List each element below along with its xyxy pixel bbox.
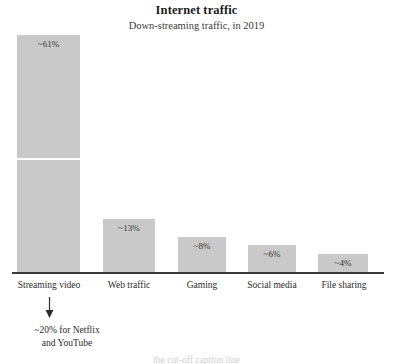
x-tick-label-streaming-video: Streaming video (8, 280, 90, 290)
bar-social-media[interactable]: ~6% (248, 245, 296, 272)
bar-split-line (17, 158, 80, 160)
bar-value-web-traffic: ~13% (103, 223, 155, 233)
bar-value-file-sharing: ~4% (318, 258, 368, 268)
bar-chart-plot-area: ~61% ~13% ~8% ~6% ~4% Streaming video We… (0, 0, 393, 364)
x-tick-label-social-media: Social media (238, 280, 306, 290)
footer-caption: the cut-off caption line (0, 355, 393, 364)
x-tick-label-gaming: Gaming (172, 280, 232, 290)
bar-streaming-video[interactable]: ~61% (17, 35, 80, 272)
annotation-line-1: ~20% for Netflix (2, 324, 132, 337)
x-tick-label-file-sharing: File sharing (313, 280, 375, 290)
bar-value-streaming-video: ~61% (17, 39, 80, 49)
bar-file-sharing[interactable]: ~4% (318, 254, 368, 272)
bar-value-gaming: ~8% (178, 241, 226, 251)
down-arrow-icon (45, 297, 54, 319)
bar-web-traffic[interactable]: ~13% (103, 219, 155, 272)
bar-value-social-media: ~6% (248, 249, 296, 259)
x-axis-line (12, 272, 384, 274)
bar-gaming[interactable]: ~8% (178, 237, 226, 272)
x-tick-label-web-traffic: Web traffic (96, 280, 162, 290)
annotation-line-2: and YouTube (2, 337, 132, 350)
annotation-netflix-youtube: ~20% for Netflix and YouTube (2, 324, 132, 349)
